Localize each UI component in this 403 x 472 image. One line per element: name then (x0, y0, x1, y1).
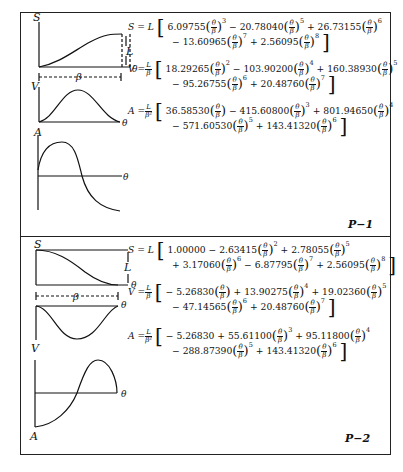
term: 47.14565(θβ)6 (183, 301, 247, 312)
term: 143.41320(θβ)6 (266, 345, 336, 356)
term: 6.09755(θβ)3 (168, 21, 227, 32)
p2-acceleration-graph (35, 360, 117, 427)
p1-velocity-graph (39, 87, 120, 122)
p1-a-theta-label: θ (123, 172, 129, 182)
term: 143.41320(θβ)6 (266, 120, 336, 131)
term: 55.61100(θβ)3 (228, 330, 292, 341)
term: 571.60530(θβ)5 (183, 120, 253, 131)
p2-a-axis-label: A (29, 430, 38, 443)
eq-lhs: S = L (128, 21, 154, 32)
term: 6.87795(θβ)7 (255, 259, 314, 270)
term: 36.58530(θβ) (166, 105, 226, 116)
p2-v-equation: V =Lβ [ − 5.26830(θβ) + 13.90275(θβ)4 + … (128, 285, 396, 315)
term: 2.78055(θβ)5 (291, 244, 350, 255)
p2-v-theta-label: θ (121, 300, 127, 310)
term: 801.94650(θβ)4 (323, 105, 393, 116)
p1-a-axis-label: A (33, 126, 42, 139)
term: 3.17060(θβ)6 (183, 259, 242, 270)
term: 18.29265(θβ)2 (166, 63, 230, 74)
term: 95.11800(θβ)4 (306, 330, 370, 341)
term: 20.78040(θβ)5 (240, 21, 304, 32)
p1-equations: S = L [ 6.09755(θβ)3 − 20.78040(θβ)5 + 2… (128, 20, 397, 140)
p2-velocity-graph (36, 306, 118, 340)
term: 415.60800(θβ)3 (240, 105, 310, 116)
p2-beta-label: β (72, 291, 79, 302)
term: 13.90275(θβ)4 (244, 286, 308, 297)
p2-s-axis-label: S (34, 238, 42, 251)
bracket-close: ] (322, 30, 330, 54)
term: 288.87390(θβ)5 (183, 345, 253, 356)
term: 95.26755(θβ)6 (183, 78, 247, 89)
term: 2.56095(θβ)8 (261, 36, 320, 47)
p1-s-equation: S = L [ 6.09755(θβ)3 − 20.78040(θβ)5 + 2… (128, 20, 397, 50)
p2-v-axis-label: V (31, 342, 40, 355)
p2-s-equation: S = L [ 1.00000 − 2.63415(θβ)2 + 2.78055… (128, 243, 396, 273)
term: 20.48760(θβ)7 (261, 78, 325, 89)
p1-displacement-graph (39, 22, 130, 81)
term: 103.90200(θβ)4 (243, 63, 313, 74)
term: 5.26830(θβ) (176, 286, 230, 297)
p1-s-axis-label: S (33, 11, 41, 24)
p1-a-equation: A =Lβ² [ 36.58530(θβ) − 415.60800(θβ)3 +… (128, 104, 397, 134)
p2-a-equation: A =Lβ² [ − 5.26830 + 55.61100(θβ)3 + 95.… (128, 329, 396, 359)
p1-v-equation: V =Lβ [ 18.29265(θβ)2 − 103.90200(θβ)4 +… (128, 62, 397, 92)
panel-label-p2: P−2 (345, 432, 370, 445)
term: 2.56095(θβ)8 (327, 259, 386, 270)
bracket-open: [ (157, 15, 165, 39)
term: 2.63415(θβ)2 (219, 244, 278, 255)
term: 20.48760(θβ)7 (261, 301, 325, 312)
p2-equations: S = L [ 1.00000 − 2.63415(θβ)2 + 2.78055… (128, 243, 396, 365)
term: 160.38930(θβ)5 (327, 63, 397, 74)
p1-acceleration-graph (38, 135, 122, 211)
p1-v-axis-label: V (31, 80, 40, 93)
term: 13.60965(θβ)7 (183, 36, 247, 47)
p1-beta-label: β (75, 71, 82, 82)
p2-a-theta-label: θ (121, 389, 127, 399)
p2-displacement-graph (36, 250, 128, 300)
panel-label-p1: P−1 (348, 218, 373, 231)
